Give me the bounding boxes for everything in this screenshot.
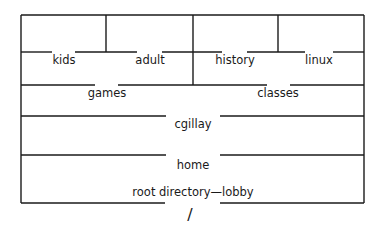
- folder-root: root directory—lobby: [132, 187, 253, 199]
- folder-adult: adult: [135, 55, 164, 67]
- folder-history: history: [215, 55, 255, 67]
- folder-games: games: [88, 88, 127, 100]
- root-slash-symbol: /: [187, 207, 192, 223]
- folder-home: home: [177, 160, 210, 172]
- folder-linux: linux: [305, 55, 333, 67]
- folder-cgillay: cgillay: [174, 119, 211, 131]
- folder-classes: classes: [257, 88, 299, 100]
- folder-kids: kids: [52, 55, 75, 67]
